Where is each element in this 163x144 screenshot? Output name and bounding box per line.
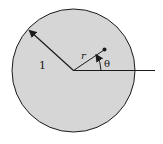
polar-disk-diagram: 1 r θ [0,0,163,144]
radius-label: 1 [39,59,46,72]
theta-label: θ [104,58,110,69]
point-marker [103,48,107,52]
